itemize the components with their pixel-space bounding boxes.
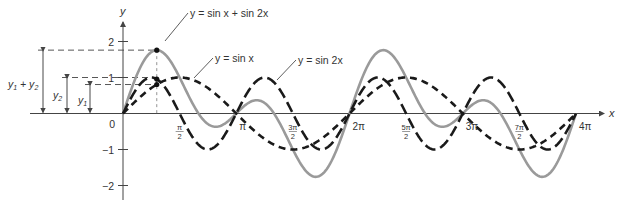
label-y1-plus-y2: y1 + y2 bbox=[7, 78, 38, 91]
x-tick-label-num: 3π bbox=[288, 123, 297, 132]
point-y2 bbox=[154, 77, 159, 82]
x-tick-label: 3π bbox=[466, 121, 479, 132]
point-sum bbox=[154, 48, 159, 53]
origin-label: 0 bbox=[109, 118, 115, 130]
y-tick-label: −2 bbox=[102, 180, 114, 192]
label-y1: y1 bbox=[77, 94, 87, 107]
x-tick-label-den: 2 bbox=[404, 132, 408, 141]
x-tick-label: 2π bbox=[353, 121, 366, 132]
y-tick-label: 2 bbox=[108, 36, 114, 48]
leader-sin2 bbox=[277, 60, 296, 80]
x-tick-label: 4π bbox=[579, 121, 592, 132]
y-axis-label: y bbox=[119, 5, 127, 17]
y-tick-label: −1 bbox=[102, 144, 114, 156]
x-tick-label-den: 2 bbox=[291, 132, 295, 141]
point-y1 bbox=[154, 82, 159, 87]
annotations: y = sin x + sin 2x y = sin x y = sin 2x … bbox=[7, 5, 615, 119]
x-tick-label-num: 5π bbox=[401, 123, 410, 132]
label-sum-curve: y = sin x + sin 2x bbox=[190, 7, 269, 19]
y-tick-label: 1 bbox=[108, 72, 114, 84]
x-tick-label-num: 7π bbox=[515, 123, 524, 132]
label-sin-curve: y = sin x bbox=[215, 52, 255, 64]
leader-sin bbox=[194, 58, 213, 78]
measurement-guides bbox=[38, 50, 157, 113]
x-tick-label: π bbox=[239, 121, 246, 132]
chart-figure: 21−1−20π2π3π22π5π23π7π24π y = sin x + si… bbox=[0, 0, 625, 209]
x-tick-label-den: 2 bbox=[517, 132, 521, 141]
curves bbox=[123, 48, 576, 177]
leader-sum bbox=[165, 13, 188, 41]
x-tick-label-den: 2 bbox=[178, 132, 182, 141]
label-sin2-curve: y = sin 2x bbox=[298, 54, 343, 66]
x-tick-label-num: π bbox=[177, 123, 182, 132]
label-y2: y2 bbox=[52, 89, 62, 102]
x-axis-label: x bbox=[608, 107, 615, 119]
chart-svg: 21−1−20π2π3π22π5π23π7π24π y = sin x + si… bbox=[0, 0, 625, 209]
